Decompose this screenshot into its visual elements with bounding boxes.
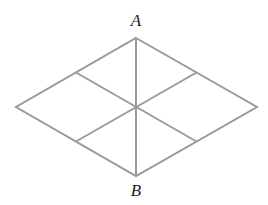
vertex-label-a: A — [131, 12, 141, 29]
rhombus-diagram: A B — [0, 0, 268, 205]
vertex-label-b: B — [131, 182, 141, 199]
rhombus-figure — [0, 0, 268, 205]
